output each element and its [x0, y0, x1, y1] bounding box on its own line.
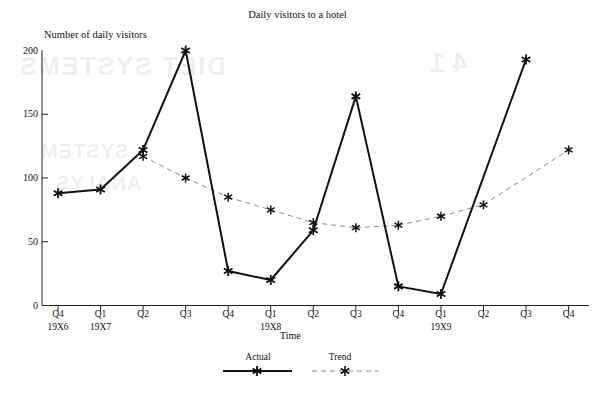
- plot-area: [0, 0, 595, 394]
- x-tick-label-quarter: Q3: [334, 309, 378, 319]
- data-point-marker: [182, 174, 190, 183]
- chart-figure: DIET SYSTEMS SYSTEM ANALYS 4 1 Daily vis…: [0, 0, 595, 394]
- data-point-marker: [522, 54, 531, 64]
- series-segment: [228, 271, 271, 280]
- data-point-marker: [181, 46, 190, 56]
- chart-legend: Actual Trend: [0, 352, 595, 386]
- x-tick-label-quarter: Q4: [376, 309, 420, 319]
- x-tick-label-quarter: Q3: [164, 309, 208, 319]
- series-segment: [313, 223, 356, 228]
- series-segment: [398, 216, 441, 225]
- series-segment: [186, 51, 229, 272]
- series-segment: [356, 225, 399, 228]
- x-tick-label-quarter: Q2: [462, 309, 506, 319]
- series-segment: [186, 178, 229, 197]
- series-segment: [441, 205, 484, 216]
- series-trend: [139, 145, 572, 232]
- data-point-marker: [224, 193, 232, 202]
- x-tick-label-quarter: Q2: [121, 309, 165, 319]
- series-segment: [228, 197, 271, 210]
- data-point-marker: [267, 205, 275, 214]
- y-tick-label: 0: [4, 301, 38, 311]
- x-tick-label-quarter: Q1: [79, 309, 123, 319]
- data-point-marker: [437, 212, 445, 221]
- x-tick-label-quarter: Q4: [206, 309, 250, 319]
- x-tick-label-quarter: Q3: [504, 309, 548, 319]
- series-segment: [313, 96, 356, 230]
- series-segment: [143, 51, 186, 150]
- x-tick-label-year: 19X8: [243, 322, 299, 332]
- series-segment: [398, 286, 441, 294]
- x-tick-label-quarter: Q4: [547, 309, 591, 319]
- x-tick-label-year: 19X9: [413, 322, 469, 332]
- x-tick-label-quarter: Q1: [419, 309, 463, 319]
- data-point-marker: [480, 200, 488, 209]
- y-tick-label: 100: [4, 173, 38, 183]
- x-tick-label-quarter: Q4: [36, 309, 80, 319]
- series-segment: [58, 189, 101, 193]
- legend-swatches: [0, 352, 595, 386]
- series-segment: [271, 210, 314, 223]
- y-tick-label: 50: [4, 237, 38, 247]
- series-segment: [441, 59, 526, 294]
- axes: [42, 50, 589, 312]
- data-point-marker: [352, 91, 361, 101]
- x-tick-label-year: 19X7: [73, 322, 129, 332]
- data-point-marker: [565, 145, 573, 154]
- series-segment: [484, 150, 569, 205]
- x-tick-label-quarter: Q1: [249, 309, 293, 319]
- series-segment: [143, 156, 186, 178]
- x-tick-label-quarter: Q2: [291, 309, 335, 319]
- series-actual: [54, 46, 531, 300]
- series-segment: [101, 150, 144, 190]
- series-segment: [356, 96, 399, 286]
- y-tick-label: 200: [4, 46, 38, 56]
- y-tick-label: 150: [4, 109, 38, 119]
- series-segment: [271, 230, 314, 280]
